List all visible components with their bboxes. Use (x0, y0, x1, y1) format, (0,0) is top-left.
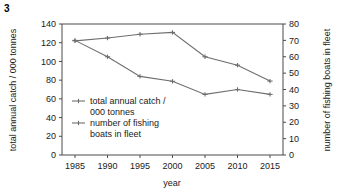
y-axis-right-tick-label: 40 (289, 85, 299, 95)
x-axis-ticks: 1985199019952000200520102015 (65, 155, 280, 171)
y-axis-right-tick-label: 0 (289, 150, 294, 160)
y-axis-right-tick-label: 80 (289, 19, 299, 29)
y-axis-right-tick-label: 60 (289, 52, 299, 62)
line-chart: 020406080100120140 01020304050607080 198… (0, 0, 337, 191)
series-line (75, 40, 270, 94)
x-axis-tick-label: 1985 (65, 161, 85, 171)
y-axis-left-tick-label: 80 (46, 75, 56, 85)
legend-label: number of fishing (90, 118, 159, 128)
y-axis-left-ticks: 020406080100120140 (41, 19, 62, 160)
x-axis-tick-label: 2015 (260, 161, 280, 171)
y-axis-right-tick-label: 70 (289, 36, 299, 46)
x-axis-tick-label: 1990 (97, 161, 117, 171)
y-axis-right-title: number of fishing boats in fleet (322, 28, 332, 151)
x-axis-title: year (163, 178, 181, 188)
legend-label: total annual catch / (90, 96, 166, 106)
x-axis-tick-label: 1995 (130, 161, 150, 171)
y-axis-left-tick-label: 20 (46, 131, 56, 141)
chart-svg: 020406080100120140 01020304050607080 198… (0, 0, 337, 191)
x-axis-tick-label: 2000 (162, 161, 182, 171)
y-axis-left-title: total annual catch / 000 tonnes (8, 28, 18, 151)
y-axis-left-tick-label: 140 (41, 19, 56, 29)
series-line (75, 32, 270, 81)
legend-label: 000 tonnes (90, 107, 135, 117)
y-axis-right-ticks: 01020304050607080 (283, 19, 299, 160)
y-axis-left-tick-label: 40 (46, 113, 56, 123)
y-axis-left-tick-label: 60 (46, 94, 56, 104)
chart-legend: total annual catch /000 tonnesnumber of … (72, 96, 166, 139)
y-axis-right-tick-label: 50 (289, 68, 299, 78)
y-axis-left-tick-label: 100 (41, 57, 56, 67)
x-axis-tick-label: 2005 (195, 161, 215, 171)
legend-label: boats in fleet (90, 129, 142, 139)
y-axis-left-tick-label: 120 (41, 38, 56, 48)
y-axis-right-tick-label: 10 (289, 134, 299, 144)
y-axis-right-tick-label: 20 (289, 117, 299, 127)
x-axis-tick-label: 2010 (227, 161, 247, 171)
y-axis-left-tick-label: 0 (51, 150, 56, 160)
series-layer (72, 30, 272, 96)
y-axis-right-tick-label: 30 (289, 101, 299, 111)
